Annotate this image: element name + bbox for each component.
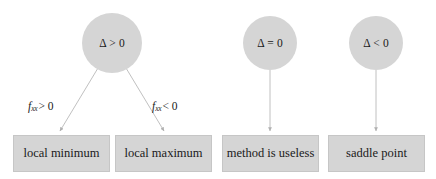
outcome-label-method-is-useless: method is useless — [227, 146, 315, 161]
condition-node-delta-positive[interactable]: Δ > 0 — [82, 13, 142, 73]
edge-delta-positive-to-local-minimum — [60, 68, 98, 131]
outcome-label-local-maximum: local maximum — [124, 146, 202, 161]
outcome-node-method-is-useless[interactable]: method is useless — [222, 135, 319, 172]
outcome-label-local-minimum: local minimum — [23, 146, 99, 161]
condition-label-delta-zero: Δ = 0 — [257, 37, 283, 49]
outcome-label-saddle-point: saddle point — [346, 146, 407, 161]
condition-node-delta-zero[interactable]: Δ = 0 — [243, 16, 297, 70]
edge-label-fxx-positive-operator: > 0 — [37, 100, 53, 112]
decision-diagram: Δ > 0 Δ = 0 Δ < 0 fxx> 0 fxx< 0 local mi… — [0, 0, 436, 179]
outcome-node-local-maximum[interactable]: local maximum — [115, 135, 212, 172]
condition-label-delta-positive: Δ > 0 — [99, 37, 125, 49]
condition-label-delta-negative: Δ < 0 — [363, 37, 389, 49]
outcome-node-local-minimum[interactable]: local minimum — [13, 135, 110, 172]
condition-node-delta-negative[interactable]: Δ < 0 — [349, 16, 403, 70]
edge-group — [60, 68, 376, 131]
edge-label-fxx-positive: fxx> 0 — [28, 100, 54, 113]
edge-label-fxx-negative: fxx< 0 — [152, 100, 178, 113]
outcome-node-saddle-point[interactable]: saddle point — [328, 135, 425, 172]
edge-label-fxx-negative-operator: < 0 — [161, 100, 177, 112]
